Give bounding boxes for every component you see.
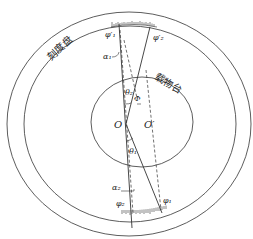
dashed-line-2 — [146, 70, 161, 210]
dial-outer-circle — [7, 12, 251, 236]
label-phi1-prime: φ′₁ — [105, 30, 116, 39]
dial-label: 刻度盘 — [44, 33, 74, 62]
label-theta2: θ₂ — [125, 88, 133, 97]
spectrometer-diagram: 刻度盘 载物台 O O′ φ′₁ φ′₂ φ₁ φ₂ α₁ α₂ θ₁ θ₂ Φ — [0, 0, 253, 239]
alpha2-leader — [121, 189, 134, 191]
label-theta1: θ₁ — [129, 147, 137, 156]
alpha1-leader — [112, 52, 119, 57]
label-phi1: φ₁ — [163, 196, 172, 205]
label-alpha1: α₁ — [103, 52, 112, 61]
label-O: O — [114, 119, 122, 130]
label-Phi: Φ — [134, 94, 141, 103]
stage-label: 载物台 — [153, 71, 185, 96]
label-O-prime: O′ — [144, 119, 155, 130]
label-phi2-prime: φ′₂ — [153, 33, 164, 42]
label-alpha2: α₂ — [112, 183, 121, 192]
label-phi2: φ₂ — [116, 199, 125, 208]
theta2-arc — [124, 103, 131, 104]
